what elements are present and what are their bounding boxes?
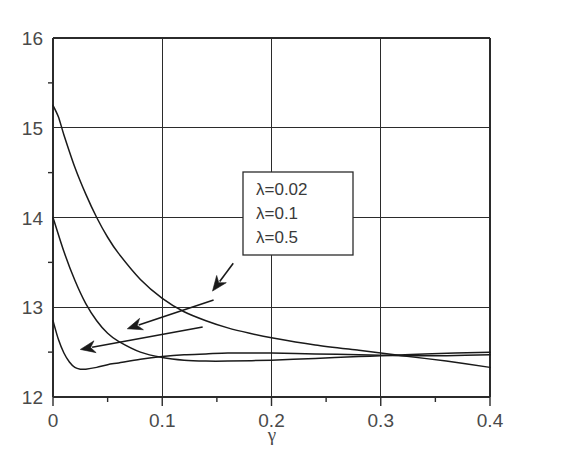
x-tick-label-4: 0.4 [477, 410, 504, 431]
y-tick-label-2: 14 [22, 208, 44, 229]
legend-entry-1-label: λ=0.1 [256, 204, 298, 223]
legend-entry-0-label: λ=0.02 [256, 180, 308, 199]
legend-box: λ=0.02 λ=0.1 λ=0.5 [243, 172, 353, 255]
line-chart: λ=0.02 λ=0.1 λ=0.5 00.10.20.30.416151413… [0, 0, 567, 452]
x-tick-label-1: 0.1 [149, 410, 175, 431]
chart-figure: λ=0.02 λ=0.1 λ=0.5 00.10.20.30.416151413… [0, 0, 567, 452]
y-tick-label-1: 15 [22, 118, 43, 139]
y-tick-label-0: 16 [22, 28, 43, 49]
y-tick-label-4: 12 [22, 387, 43, 408]
x-axis-label: γ [267, 424, 276, 445]
x-tick-label-3: 0.3 [368, 410, 394, 431]
y-tick-label-3: 13 [22, 297, 43, 318]
x-tick-label-0: 0 [48, 410, 59, 431]
legend-entry-2-label: λ=0.5 [256, 228, 298, 247]
